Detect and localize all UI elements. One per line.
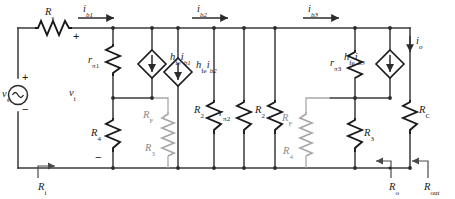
label-R4-stage3: R4: [283, 146, 293, 157]
label-ib1: ib1: [83, 4, 93, 15]
resistor-RC: [403, 100, 417, 134]
resistor-R3-stage3: [348, 118, 362, 152]
label-RC: RC: [419, 105, 430, 116]
label-rpi3: rπ3: [330, 58, 341, 69]
label-rpi1: rπ1: [88, 55, 99, 66]
dependent-source-hfe-ib1: [138, 50, 166, 78]
label-R3-stage3: R3: [364, 128, 374, 139]
resistor-RF-R3-left: [162, 112, 174, 156]
label-hfe-ib2: hfeib2: [196, 60, 217, 71]
resistor-rpi2: [237, 100, 251, 134]
label-R4-stage1: R4: [91, 128, 101, 139]
resistor-rpi1: [106, 44, 120, 76]
resistance-reference-arrows: [38, 161, 428, 178]
label-Rs: Rs: [45, 7, 54, 18]
label-Ri: Ri: [38, 182, 46, 193]
label-R3-stage1: R3: [145, 143, 155, 154]
arrow-Ro: [376, 161, 391, 178]
label-rpi2: rπ2: [219, 108, 230, 119]
arrow-Rout: [412, 161, 428, 178]
wire-network: [18, 28, 410, 168]
label-RF-stage3: RF: [282, 113, 292, 124]
label-R2-stage3: R2: [255, 105, 265, 116]
dependent-source-hfe-ib3: [376, 50, 404, 78]
voltage-source-vs: [9, 86, 28, 105]
label-Ro: Ro: [389, 182, 399, 193]
resistor-R2-stage3: [268, 100, 282, 134]
label-Rout: Rout: [424, 182, 439, 193]
circuit-schematic-svg: [0, 0, 455, 199]
label-hfe-ib1: hfeib1: [170, 52, 191, 63]
label-plus-source: +: [22, 72, 28, 83]
label-R2-stage2: R2: [194, 105, 204, 116]
label-hfe-ib3: hfeib3: [344, 52, 365, 63]
label-plus-input: +: [73, 31, 79, 42]
label-vs: vs: [2, 89, 9, 100]
resistor-Rs: [35, 21, 72, 35]
label-minus-input: −: [95, 152, 101, 163]
label-vi: vi: [69, 88, 76, 99]
label-minus-source: −: [22, 104, 28, 115]
label-RF-stage1: RF: [143, 110, 153, 121]
label-ib3: ib3: [308, 4, 318, 15]
resistor-R4-stage1: [106, 118, 120, 152]
resistor-RF-R4-right: [300, 112, 312, 156]
label-ib2: ib2: [197, 4, 207, 15]
circuit-diagram-canvas: Rs ib1 ib2 ib3 io + − rπ1 hfeib1 hfeib2 …: [0, 0, 455, 199]
label-io: io: [416, 36, 422, 47]
